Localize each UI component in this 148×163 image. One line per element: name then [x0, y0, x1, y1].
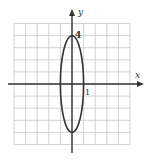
x-axis-arrow-icon: [137, 81, 144, 87]
y-tick-label-4: 4: [75, 30, 81, 40]
x-tick-label-1: 1: [85, 88, 90, 97]
y-axis-arrow-icon: [69, 9, 75, 16]
ellipse-plot: y x 4 1: [0, 0, 148, 163]
x-axis-label: x: [135, 70, 140, 80]
y-axis-label: y: [77, 7, 84, 17]
